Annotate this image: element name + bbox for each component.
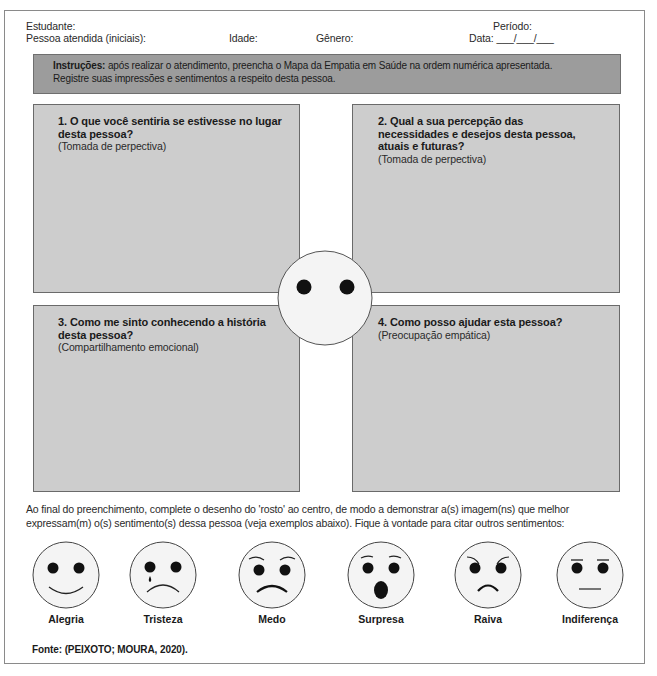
blank-face-icon [277, 250, 373, 346]
instructions-box: Instruções: após realizar o atendimento,… [33, 54, 621, 94]
quadrant-1-title: 1. O que você sentiria se estivesse no l… [58, 115, 283, 140]
quadrant-4[interactable]: 4. Como posso ajudar esta pessoa? (Preoc… [352, 305, 620, 492]
periodo-label: Período: [493, 20, 532, 32]
quadrant-2-title: 2. Qual a sua percepção das necessidades… [378, 115, 593, 153]
quadrant-3-subtitle: (Compartilhamento emocional) [58, 341, 299, 354]
instructions-line2: Registre suas impressões e sentimentos a… [53, 73, 620, 86]
genero-label: Gênero: [316, 32, 353, 44]
instructions-heading: Instruções: [53, 60, 105, 71]
face-alegria: Alegria [21, 540, 111, 625]
estudante-label: Estudante: [26, 20, 75, 32]
face-tristeza: Tristeza [118, 540, 208, 625]
quadrant-1-subtitle: (Tomada de perpectiva) [58, 140, 299, 153]
fear-face-icon [237, 540, 307, 610]
source-citation: Fonte: (PEIXOTO; MOURA, 2020). [32, 644, 188, 655]
instructions-line1: após realizar o atendimento, preencha o … [105, 60, 552, 71]
neutral-face-icon [555, 540, 625, 610]
quadrant-3-title: 3. Como me sinto conhecendo a história d… [58, 316, 268, 341]
quadrant-4-title: 4. Como posso ajudar esta pessoa? [378, 316, 608, 329]
quadrant-3[interactable]: 3. Como me sinto conhecendo a história d… [33, 305, 300, 492]
pessoa-atendida-label: Pessoa atendida (iniciais): [26, 32, 146, 44]
face-label-raiva: Raiva [443, 613, 533, 625]
happy-face-icon [31, 540, 101, 610]
face-label-alegria: Alegria [21, 613, 111, 625]
idade-label: Idade: [229, 32, 258, 44]
emotion-examples: Alegria Tristeza Medo [0, 540, 657, 630]
face-indiferenca: Indiferença [545, 540, 635, 625]
face-label-tristeza: Tristeza [118, 613, 208, 625]
face-label-indiferenca: Indiferença [545, 613, 635, 625]
sad-crying-face-icon [128, 540, 198, 610]
face-label-surpresa: Surpresa [336, 613, 426, 625]
face-raiva: Raiva [443, 540, 533, 625]
data-label: Data: ___/___/___ [469, 32, 554, 44]
surprise-face-icon [346, 540, 416, 610]
face-label-medo: Medo [227, 613, 317, 625]
completion-instructions: Ao final do preenchimento, complete o de… [26, 503, 636, 530]
quadrant-2[interactable]: 2. Qual a sua percepção das necessidades… [352, 104, 620, 293]
face-surpresa: Surpresa [336, 540, 426, 625]
quadrant-4-subtitle: (Preocupação empática) [378, 329, 619, 342]
angry-face-icon [453, 540, 523, 610]
center-face-drawing-area[interactable] [277, 250, 373, 346]
quadrant-2-subtitle: (Tomada de perpectiva) [378, 153, 619, 166]
quadrant-1[interactable]: 1. O que você sentiria se estivesse no l… [33, 104, 300, 293]
face-medo: Medo [227, 540, 317, 625]
